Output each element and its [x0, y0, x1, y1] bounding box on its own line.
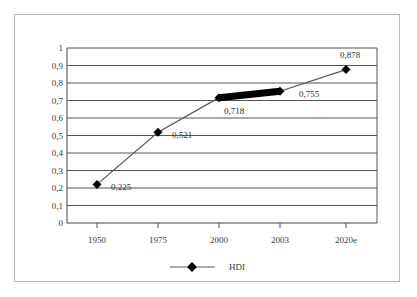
y-axis-tick-0-5: 0,5 — [52, 131, 64, 141]
y-axis-tick-0-3: 0,3 — [52, 166, 64, 176]
y-axis-tick-1: 1 — [59, 43, 64, 53]
legend-marker-diamond-icon — [187, 262, 197, 272]
y-axis-tick-0-1: 0,1 — [52, 201, 63, 211]
data-label-2003: 0,755 — [299, 89, 320, 99]
chart-outer-frame: 1 0,9 0,8 0,7 0,6 0,5 0,4 0,3 0,2 0,1 0 — [14, 14, 400, 282]
y-axis-tick-0-6: 0,6 — [52, 113, 64, 123]
hdi-line-chart[interactable]: 1 0,9 0,8 0,7 0,6 0,5 0,4 0,3 0,2 0,1 0 — [15, 15, 401, 283]
y-axis-tick-0-7: 0,7 — [52, 96, 64, 106]
y-axis-tick-0-4: 0,4 — [52, 148, 64, 158]
y-axis-tick-0-2: 0,2 — [52, 183, 63, 193]
data-label-2000: 0,718 — [224, 106, 245, 116]
y-axis-tick-0-8: 0,8 — [52, 78, 64, 88]
series-hdi-bold-segment-2000-2003 — [219, 91, 280, 98]
x-axis-tick-2000: 2000 — [210, 235, 229, 245]
x-axis-tick-1975: 1975 — [149, 235, 168, 245]
x-axis-tick-1950: 1950 — [88, 235, 107, 245]
series-hdi-line[interactable] — [97, 70, 346, 185]
y-axis-tick-0: 0 — [59, 218, 64, 228]
data-label-1975: 0,521 — [172, 130, 192, 140]
chart-legend[interactable]: HDI — [170, 262, 245, 272]
x-axis-ticks — [97, 223, 346, 228]
data-point-2020e[interactable] — [342, 65, 351, 74]
data-label-2020e: 0,878 — [340, 50, 361, 60]
data-label-1950: 0,225 — [111, 182, 132, 192]
y-axis-tick-0-9: 0,9 — [52, 61, 64, 71]
legend-label-hdi: HDI — [229, 262, 245, 272]
x-axis-tick-2020e: 2020e — [335, 235, 357, 245]
x-axis-tick-2003: 2003 — [271, 235, 290, 245]
chart-plot-stage: 1 0,9 0,8 0,7 0,6 0,5 0,4 0,3 0,2 0,1 0 — [15, 15, 399, 281]
